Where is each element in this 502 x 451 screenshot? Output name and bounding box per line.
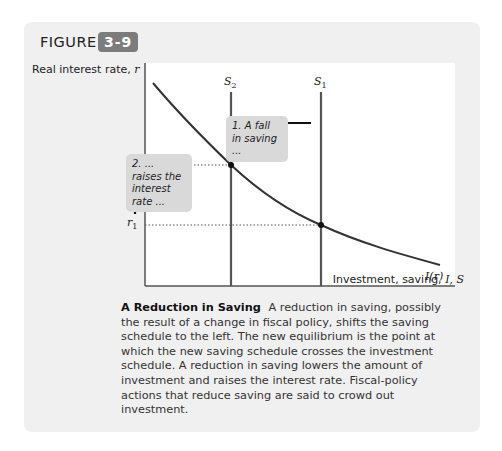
original-equilibrium-point [318,222,324,228]
x-axis-label: Investment, saving, I, S [333,273,464,286]
annotation-raises-rate: 2. ... raises the interest rate ... [126,154,192,212]
caption-body: A reduction in saving, possibly the resu… [121,301,441,416]
r1-tick-label: r1 [127,216,137,231]
caption-title: A Reduction in Saving [121,301,261,314]
s2-label: S2 [224,75,237,90]
annotation-fall-in-saving: 1. A fall in saving ... [226,116,288,162]
new-equilibrium-point [228,162,234,168]
s1-label: S1 [314,75,327,90]
figure-caption: A Reduction in Saving A reduction in sav… [121,301,443,418]
